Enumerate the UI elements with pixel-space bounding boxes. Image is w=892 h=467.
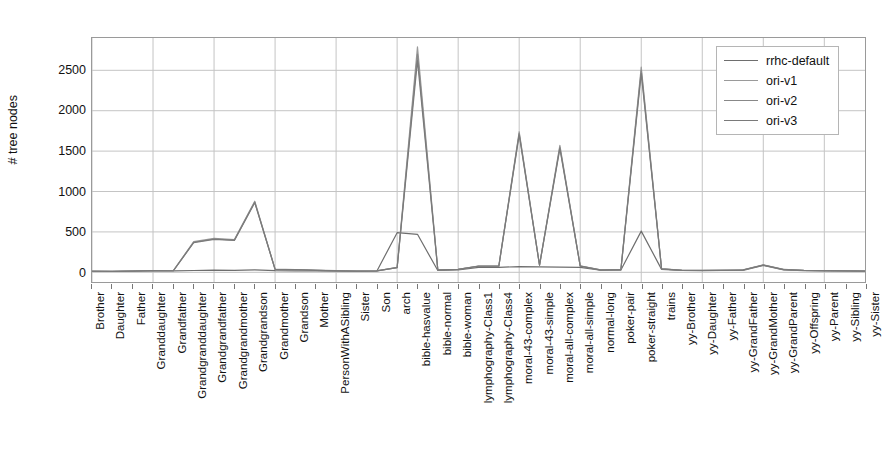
x-tick-mark [417,284,418,289]
legend-item: rrhc-default [724,53,829,68]
legend-item: ori-v1 [724,73,829,88]
y-axis-tick-labels: 05001000150020002500 [30,0,86,467]
x-tick-mark [377,284,378,289]
legend-label: ori-v2 [766,94,797,108]
x-tick-mark [540,284,541,289]
legend-label: ori-v3 [766,114,797,128]
x-tick-mark [499,284,500,289]
x-tick-label: Grandmother [279,292,291,360]
x-tick-label: Granddaughter [156,292,168,369]
y-tick-label: 2000 [30,103,86,117]
x-tick-mark [723,284,724,289]
x-tick-label: trains [666,292,678,320]
x-tick-mark [560,284,561,289]
x-tick-label: lymphography-Class4 [503,292,515,403]
x-tick-mark [580,284,581,289]
legend-item: ori-v3 [724,113,829,128]
x-axis-tick-labels: BrotherDaughterFatherGranddaughterGrandf… [91,292,866,462]
line-chart: # tree nodes 05001000150020002500 Brothe… [0,0,892,467]
x-tick-mark [213,284,214,289]
x-tick-mark [193,284,194,289]
x-tick-label: poker-straight [646,292,658,362]
y-tick-label: 0 [30,266,86,280]
legend-color-swatch [724,60,758,61]
x-tick-label: Grandgrandmother [238,292,250,389]
legend-color-swatch [724,120,758,121]
x-tick-label: Grandgrandfather [217,292,229,383]
chart-legend: rrhc-defaultori-v1ori-v2ori-v3 [716,46,839,135]
x-tick-label: Grandfather [177,292,189,353]
x-tick-mark [784,284,785,289]
x-tick-mark [458,284,459,289]
x-tick-label: Grandgranddaughter [197,292,209,399]
x-tick-label: PersonWithASibling [340,292,352,394]
x-tick-label: Grandson [299,292,311,343]
x-tick-mark [275,284,276,289]
x-tick-label: yy-Sister [870,292,882,337]
x-tick-label: Brother [95,292,107,330]
x-tick-mark [254,284,255,289]
x-tick-label: poker-pair [625,292,637,344]
x-tick-label: bible-woman [462,292,474,357]
x-tick-label: yy-Parent [829,292,841,341]
x-tick-label: Daughter [115,292,127,339]
x-tick-label: yy-Sibling [850,292,862,342]
x-tick-label: moral-43-simple [544,292,556,374]
y-tick-label: 1000 [30,185,86,199]
x-tick-mark [519,284,520,289]
x-tick-mark [132,284,133,289]
x-tick-label: moral-all-simple [584,292,596,373]
x-tick-label: Mother [319,292,331,328]
x-tick-label: bible-normal [442,292,454,355]
legend-item: ori-v2 [724,93,829,108]
x-tick-mark [173,284,174,289]
x-tick-label: Grandgrandson [258,292,270,372]
x-tick-label: yy-GrandParent [788,292,800,373]
x-tick-mark [111,284,112,289]
y-tick-label: 2500 [30,63,86,77]
x-tick-label: moral-all-complex [564,292,576,383]
x-tick-mark [91,284,92,289]
legend-label: ori-v1 [766,74,797,88]
x-tick-mark [234,284,235,289]
x-tick-label: yy-Brother [686,292,698,345]
x-tick-mark [703,284,704,289]
x-tick-mark [764,284,765,289]
x-tick-mark [438,284,439,289]
x-tick-mark [336,284,337,289]
y-tick-label: 1500 [30,144,86,158]
x-tick-label: yy-Offspring [809,292,821,354]
x-tick-mark [682,284,683,289]
x-tick-label: moral-43-complex [523,292,535,384]
x-tick-mark [152,284,153,289]
x-tick-label: arch [401,292,413,314]
x-tick-mark [315,284,316,289]
x-tick-mark [866,284,867,289]
legend-color-swatch [724,80,758,81]
x-tick-mark [825,284,826,289]
x-tick-label: yy-GrandFather [748,292,760,373]
x-tick-mark [356,284,357,289]
x-tick-mark [397,284,398,289]
legend-color-swatch [724,100,758,101]
x-tick-mark [642,284,643,289]
x-tick-mark [805,284,806,289]
x-tick-mark [846,284,847,289]
x-tick-label: Son [381,292,393,312]
x-tick-mark [479,284,480,289]
x-tick-label: yy-GrandMother [768,292,780,375]
x-tick-mark [662,284,663,289]
x-tick-label: bible-hasvalue [421,292,433,366]
x-tick-label: lymphography-Class1 [483,292,495,403]
x-tick-mark [621,284,622,289]
x-tick-label: yy-Daughter [707,292,719,355]
y-axis-title: # tree nodes [6,26,20,96]
y-tick-label: 500 [30,225,86,239]
x-tick-mark [601,284,602,289]
x-tick-mark [744,284,745,289]
x-tick-label: Father [136,292,148,325]
x-tick-label: normal-long [605,292,617,353]
x-tick-mark [295,284,296,289]
x-tick-label: yy-Father [727,292,739,341]
x-tick-label: Sister [360,292,372,321]
